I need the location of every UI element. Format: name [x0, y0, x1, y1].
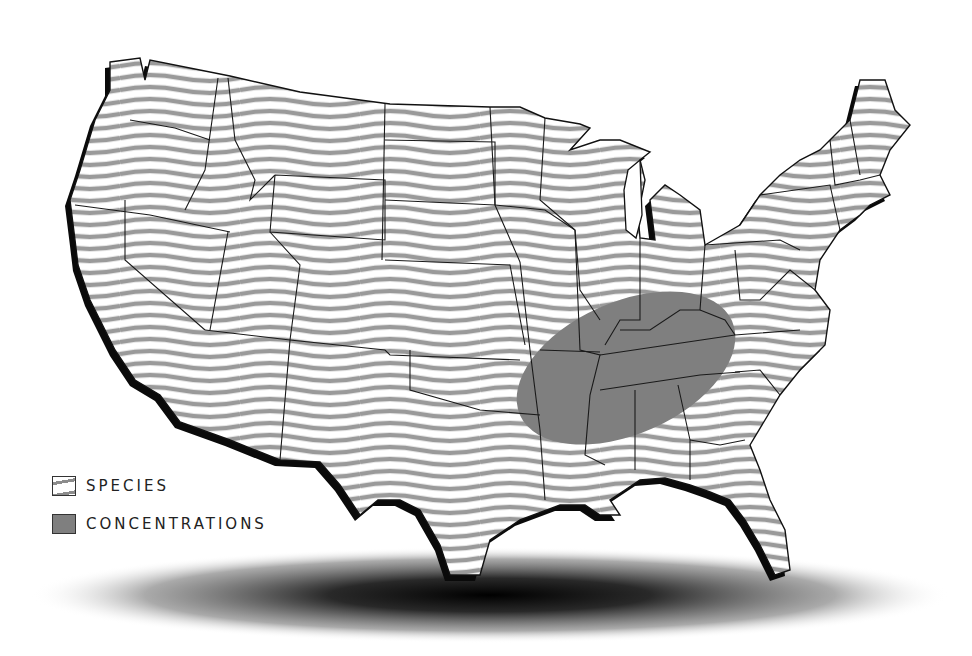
range-map: SPECIES CONCENTRATIONS	[0, 0, 972, 656]
us-map-svg	[0, 0, 972, 656]
concentration-swatch-icon	[52, 514, 76, 534]
legend: SPECIES CONCENTRATIONS	[52, 474, 267, 550]
legend-item-species: SPECIES	[52, 474, 267, 498]
legend-label: CONCENTRATIONS	[86, 515, 267, 533]
legend-label: SPECIES	[86, 477, 169, 495]
legend-item-concentrations: CONCENTRATIONS	[52, 512, 267, 536]
ground-shadow	[30, 547, 950, 643]
species-swatch-icon	[52, 476, 76, 496]
